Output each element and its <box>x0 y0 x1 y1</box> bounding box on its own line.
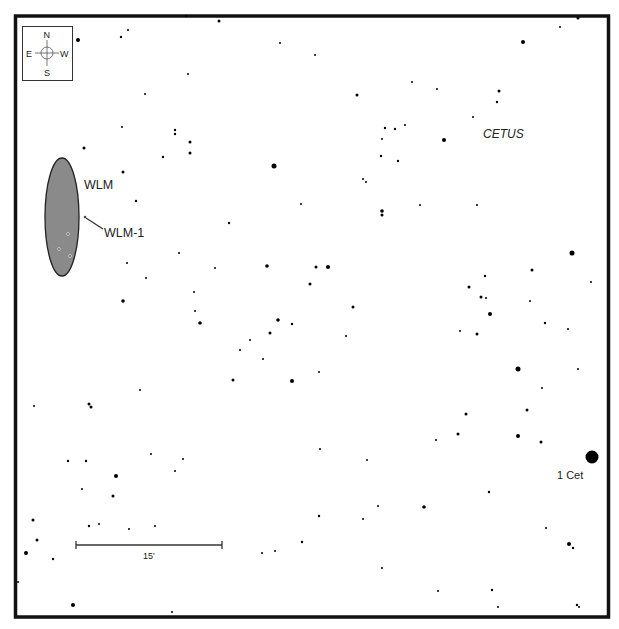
star <box>174 129 176 131</box>
star <box>88 403 91 406</box>
star <box>590 281 592 283</box>
star <box>366 459 368 461</box>
star <box>394 128 396 130</box>
star <box>174 133 176 135</box>
star <box>442 138 446 142</box>
star <box>178 252 180 254</box>
star <box>239 349 241 351</box>
star <box>567 328 569 330</box>
star-1-cet[interactable] <box>586 451 599 464</box>
star <box>437 590 439 592</box>
star <box>465 413 468 416</box>
star <box>457 433 460 436</box>
star <box>570 251 575 256</box>
star <box>154 525 156 527</box>
star <box>384 127 386 129</box>
star <box>572 547 574 549</box>
star <box>228 222 230 224</box>
star <box>380 155 382 157</box>
star <box>98 523 100 525</box>
star <box>193 291 195 293</box>
star <box>516 367 521 372</box>
star <box>145 277 147 279</box>
star <box>36 539 39 542</box>
constellation-label: CETUS <box>483 127 524 141</box>
star <box>318 515 320 517</box>
star <box>381 567 383 569</box>
star <box>261 552 263 554</box>
galaxy-star <box>67 233 70 236</box>
star <box>144 93 146 95</box>
star <box>309 283 312 286</box>
star-1-cet-label: 1 Cet <box>557 469 583 481</box>
star <box>526 409 529 412</box>
star <box>484 275 486 277</box>
star <box>540 441 543 444</box>
galaxy-label: WLM <box>84 178 113 192</box>
star <box>114 474 118 478</box>
star <box>218 20 221 23</box>
star <box>291 323 293 325</box>
star <box>71 603 75 607</box>
compass-north: N <box>44 30 51 40</box>
star <box>476 333 479 336</box>
star <box>476 204 478 206</box>
star <box>171 611 173 613</box>
star <box>52 558 54 560</box>
star <box>189 152 192 155</box>
star <box>24 551 28 555</box>
galaxy-star <box>69 255 72 258</box>
star <box>577 17 580 20</box>
star <box>497 606 499 608</box>
star <box>380 209 384 213</box>
star <box>76 38 80 42</box>
star <box>279 42 281 44</box>
star <box>318 371 320 373</box>
star <box>436 88 438 90</box>
star <box>194 310 196 312</box>
star <box>488 312 492 316</box>
star <box>541 387 543 389</box>
chart-frame <box>16 16 609 617</box>
star <box>182 458 184 460</box>
scale-bar-label: 15' <box>143 551 155 561</box>
star <box>32 519 35 522</box>
star <box>529 300 531 302</box>
star <box>301 541 303 543</box>
star <box>122 171 125 174</box>
star <box>352 306 355 309</box>
star <box>485 297 487 299</box>
star <box>112 495 115 498</box>
star <box>290 379 294 383</box>
star <box>377 505 379 507</box>
star <box>531 269 534 272</box>
star <box>314 54 316 56</box>
star <box>319 448 321 450</box>
star <box>544 322 546 324</box>
star <box>121 299 125 303</box>
star <box>488 491 490 493</box>
star <box>33 405 35 407</box>
star <box>576 604 578 606</box>
star <box>88 525 90 527</box>
star <box>81 488 83 490</box>
star <box>126 262 128 264</box>
star <box>345 335 347 337</box>
star <box>249 339 251 341</box>
star <box>496 101 498 103</box>
star <box>276 318 280 322</box>
star <box>567 542 571 546</box>
star <box>578 606 580 608</box>
star <box>90 406 93 409</box>
star <box>150 453 152 455</box>
star <box>577 368 579 370</box>
star <box>120 36 122 38</box>
star <box>139 389 141 391</box>
star <box>189 141 192 144</box>
wlm-galaxy-ellipse[interactable] <box>45 158 79 276</box>
star <box>174 470 176 472</box>
star <box>491 589 493 591</box>
star <box>480 296 483 299</box>
star <box>404 124 406 126</box>
star <box>121 126 123 128</box>
